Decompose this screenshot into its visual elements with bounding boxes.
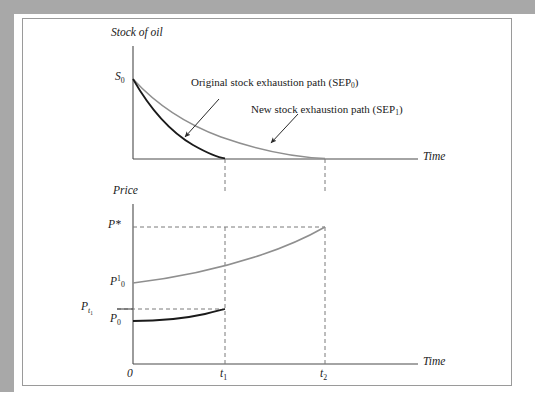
p-t1-sub: t1 xyxy=(88,306,93,315)
p-t1-label: Pt1 xyxy=(81,301,93,316)
new-price-path-curve xyxy=(133,227,325,283)
p-zero-label: P0 xyxy=(110,313,121,326)
figure-page: Stock of oil Time S0 Original stock exha… xyxy=(0,0,535,415)
decorative-band-left xyxy=(0,0,14,392)
page-bottom-margin xyxy=(0,392,535,415)
p-star-label: P* xyxy=(108,219,121,231)
s0-axis-label: S0 xyxy=(115,71,125,84)
p-zero-sub: 0 xyxy=(117,318,121,327)
figure-panel: Stock of oil Time S0 Original stock exha… xyxy=(22,18,512,386)
p-star-base: P xyxy=(108,218,115,230)
p-zero-base: P xyxy=(110,312,117,324)
tick-t2: t2 xyxy=(320,368,327,381)
sep1-leader-arrow xyxy=(271,114,298,143)
top-chart-x-axis-title: Time xyxy=(423,151,445,163)
sep0-curve xyxy=(133,79,225,158)
p-zero-one-sub: 0 xyxy=(121,280,125,289)
top-chart-y-axis-title: Stock of oil xyxy=(111,27,163,39)
p-zero-one-label: P10 xyxy=(110,275,125,289)
original-price-path-curve xyxy=(133,309,225,321)
new-path-callout-tail: ) xyxy=(399,103,403,115)
p-star-sup: * xyxy=(115,218,121,230)
tick-t1: t1 xyxy=(220,368,227,381)
figure-drawing xyxy=(23,19,511,385)
original-path-callout-text: Original stock exhaustion path (SEP xyxy=(191,76,351,88)
tick-t2-sub: 2 xyxy=(323,373,327,382)
tick-t1-sub: 1 xyxy=(223,373,227,382)
original-path-callout: Original stock exhaustion path (SEP0) xyxy=(191,77,359,90)
original-path-callout-tail: ) xyxy=(355,76,359,88)
decorative-band-top xyxy=(0,0,535,14)
p-zero-one-base: P xyxy=(110,275,117,287)
new-path-callout: New stock exhaustion path (SEP1) xyxy=(251,104,403,117)
bottom-chart-x-axis-title: Time xyxy=(423,356,445,368)
p-t1-base: P xyxy=(81,300,88,312)
new-path-callout-text: New stock exhaustion path (SEP xyxy=(251,103,395,115)
s0-label-sub: 0 xyxy=(121,76,125,85)
bottom-chart-y-axis-title: Price xyxy=(113,185,138,197)
origin-label: 0 xyxy=(127,368,133,380)
sep0-leader-arrow xyxy=(185,99,219,137)
